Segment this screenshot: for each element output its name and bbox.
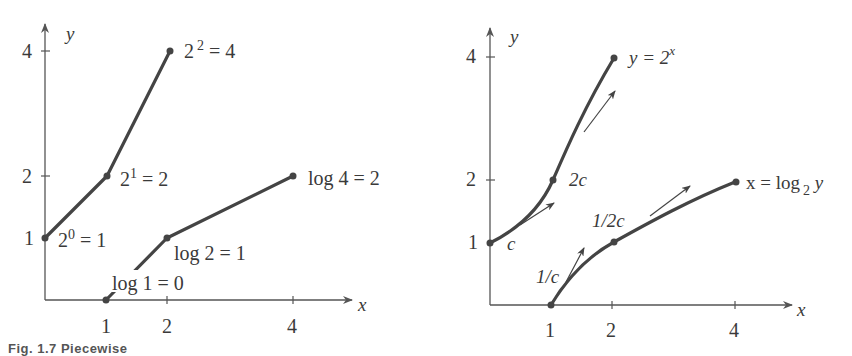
label-slope-1-over-c: 1/c: [536, 266, 560, 287]
label-slope-2c: 2c: [569, 169, 588, 190]
right-xtick-4: 4: [729, 319, 739, 341]
right-xtick-2: 2: [606, 319, 616, 341]
label-log-curve: x = log2 y: [746, 172, 824, 198]
label-exp-curve: y = 2x: [627, 43, 675, 68]
left-exp-polyline: [45, 51, 170, 238]
left-x-label: x: [357, 294, 367, 315]
right-ytick-4: 4: [466, 45, 476, 67]
right-y-label: y: [508, 26, 519, 47]
label-slope-c: c: [507, 233, 516, 254]
left-ytick-1: 1: [24, 227, 34, 249]
left-chart: y x 4 2 1 1 2 4 22 = 4 21 = 2 20 = 1 log…: [22, 23, 380, 337]
left-xtick-2: 2: [162, 315, 172, 337]
left-xtick-4: 4: [287, 315, 297, 337]
right-ticks: [486, 57, 735, 309]
label-2-pow-1: 21 = 2: [120, 166, 168, 190]
label-2-pow-2: 22 = 4: [184, 38, 235, 62]
figure-caption: Fig. 1.7 Piecewise: [8, 341, 128, 356]
right-chart: y x 4 2 1 1 2 4 y = 2x x = log2 y c 2c 1…: [466, 26, 824, 341]
left-ytick-4: 4: [22, 40, 32, 62]
left-ytick-2: 2: [22, 165, 32, 187]
log-curve: [551, 182, 735, 305]
right-x-label: x: [796, 299, 806, 320]
label-log-1: log 1 = 0: [112, 272, 184, 295]
label-2-pow-0: 20 = 1: [58, 227, 106, 251]
label-log-2: log 2 = 1: [174, 242, 246, 265]
label-slope-1-over-2c: 1/2c: [592, 210, 625, 231]
tangent-arrow-2c: [584, 91, 615, 132]
left-xtick-1: 1: [101, 315, 111, 337]
left-y-label: y: [64, 23, 75, 44]
right-ytick-1: 1: [468, 231, 478, 253]
right-xtick-1: 1: [545, 319, 555, 341]
right-ytick-2: 2: [466, 168, 476, 190]
label-log-4: log 4 = 2: [308, 167, 380, 190]
